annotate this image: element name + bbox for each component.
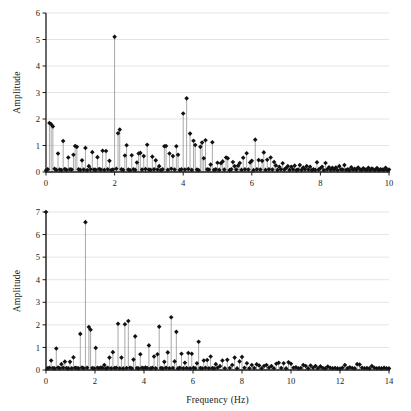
y-tick-label: 1 — [36, 141, 40, 151]
x-tick-label: 10 — [287, 376, 296, 386]
y-tick-label: 5 — [36, 35, 40, 45]
x-tick-label: 8 — [318, 178, 322, 188]
chart-panel-bottom: 0123456702468101214AmplitudeFrequency (H… — [0, 198, 411, 411]
y-axis-title: Amplitude — [12, 71, 22, 113]
x-tick-label: 0 — [44, 178, 48, 188]
y-tick-label: 7 — [36, 207, 41, 217]
x-tick-label: 8 — [240, 376, 244, 386]
x-tick-label: 2 — [93, 376, 97, 386]
x-axis-title: Frequency (Hz) — [186, 395, 249, 406]
x-tick-label: 6 — [250, 178, 255, 188]
y-tick-label: 2 — [36, 320, 40, 330]
top-spectrum-plot: 01234560246810Amplitude — [0, 0, 411, 198]
y-tick-label: 6 — [36, 8, 41, 18]
y-tick-label: 4 — [36, 61, 41, 71]
marker-group — [44, 210, 392, 371]
x-tick-label: 14 — [385, 376, 394, 386]
x-tick-label: 2 — [112, 178, 116, 188]
x-tick-label: 0 — [44, 376, 48, 386]
x-tick-label: 12 — [336, 376, 345, 386]
chart-panel-top: 01234560246810Amplitude — [0, 0, 411, 198]
x-tick-label: 6 — [191, 376, 196, 386]
y-tick-label: 2 — [36, 114, 40, 124]
stem-group — [46, 37, 389, 172]
y-tick-label: 3 — [36, 88, 40, 98]
x-tick-label: 4 — [181, 178, 186, 188]
x-tick-label: 4 — [142, 376, 147, 386]
stem-group — [46, 212, 389, 370]
y-tick-label: 4 — [36, 275, 41, 285]
marker-group — [44, 35, 392, 173]
y-tick-label: 0 — [36, 167, 40, 177]
x-tick-label: 10 — [385, 178, 394, 188]
y-tick-label: 3 — [36, 297, 40, 307]
y-tick-label: 0 — [36, 365, 40, 375]
y-axis-title: Amplitude — [12, 270, 22, 312]
y-tick-label: 1 — [36, 343, 40, 353]
y-tick-label: 5 — [36, 252, 40, 262]
figure-container: 01234560246810Amplitude 0123456702468101… — [0, 0, 411, 411]
y-tick-label: 6 — [36, 230, 41, 240]
bottom-spectrum-plot: 0123456702468101214AmplitudeFrequency (H… — [0, 198, 411, 411]
